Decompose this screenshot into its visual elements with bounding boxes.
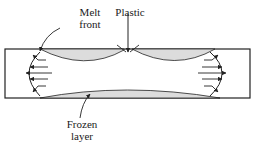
melt-front-leader xyxy=(40,28,60,51)
frozen-layer-label-line2: layer xyxy=(60,130,104,142)
frozen-layer-top-left xyxy=(40,49,124,61)
plastic-label: Plastic xyxy=(108,6,152,18)
left-melt-front-curve xyxy=(29,52,40,96)
melt-front-label-line2: front xyxy=(70,18,110,30)
melt-front-label-line1: Melt xyxy=(70,6,110,18)
frozen-layer-bottom xyxy=(40,90,220,98)
frozen-layer-label: Frozen layer xyxy=(60,118,104,142)
fountain-flow-diagram xyxy=(0,0,256,151)
frozen-layer-top-right xyxy=(132,49,215,61)
melt-front-label: Melt front xyxy=(70,6,110,30)
left-flow-arrows xyxy=(26,55,52,92)
frozen-layer-label-line1: Frozen xyxy=(60,118,104,130)
